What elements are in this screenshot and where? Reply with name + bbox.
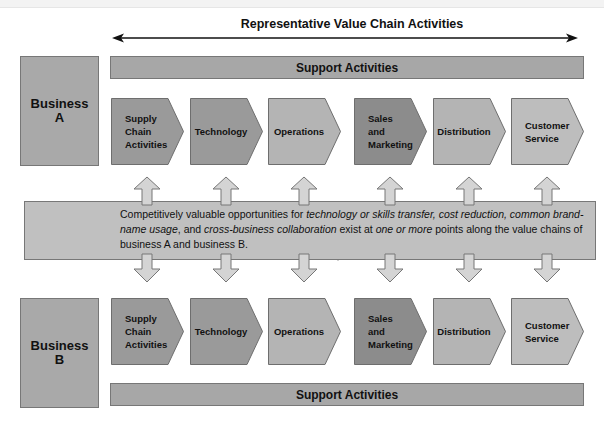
- double-headed-arrow-icon: [112, 33, 578, 43]
- down-arrow-icon: [455, 253, 483, 283]
- business-a-box: BusinessA: [20, 56, 99, 166]
- business-b-label: Business: [31, 338, 89, 353]
- business-a-label: Business: [31, 96, 89, 111]
- activity-b-0: SupplyChainActivities: [111, 298, 184, 365]
- up-arrow-icon: [133, 176, 161, 206]
- activity-a-5: CustomerService: [511, 98, 584, 165]
- activity-label: Distribution: [433, 98, 495, 165]
- up-arrow-icon: [455, 176, 483, 206]
- support-activities-bottom: Support Activities: [110, 383, 584, 406]
- up-arrow-icon: [212, 176, 240, 206]
- activity-a-2: Operations: [268, 98, 341, 165]
- activity-b-5: CustomerService: [511, 298, 584, 365]
- business-b-box: BusinessB: [20, 298, 99, 408]
- activity-a-3: SalesandMarketing: [354, 98, 427, 165]
- activity-label: SupplyChainActivities: [111, 298, 177, 365]
- opportunity-text: Competitively valuable opportunities for…: [120, 207, 588, 252]
- activity-label: CustomerService: [511, 98, 577, 165]
- activity-a-4: Distribution: [433, 98, 506, 165]
- activity-label: Technology: [190, 298, 252, 365]
- diagram-title: Representative Value Chain Activities: [110, 17, 594, 31]
- activity-b-2: Operations: [268, 298, 341, 365]
- activity-label: CustomerService: [511, 298, 577, 365]
- up-arrow-icon: [376, 176, 404, 206]
- activity-label: Operations: [268, 98, 330, 165]
- down-arrow-icon: [533, 253, 561, 283]
- top-rule: [0, 0, 604, 8]
- activity-b-4: Distribution: [433, 298, 506, 365]
- activity-b-3: SalesandMarketing: [354, 298, 427, 365]
- activity-label: SalesandMarketing: [354, 298, 420, 365]
- support-activities-top: Support Activities: [110, 56, 584, 79]
- activity-a-0: SupplyChainActivities: [111, 98, 184, 165]
- activity-label: SupplyChainActivities: [111, 98, 177, 165]
- activity-a-1: Technology: [190, 98, 263, 165]
- down-arrow-icon: [290, 253, 318, 283]
- up-arrow-icon: [533, 176, 561, 206]
- up-arrow-icon: [290, 176, 318, 206]
- activity-label: Distribution: [433, 298, 495, 365]
- activity-label: Operations: [268, 298, 330, 365]
- down-arrow-icon: [212, 253, 240, 283]
- activity-label: Technology: [190, 98, 252, 165]
- down-arrow-icon: [133, 253, 161, 283]
- down-arrow-icon: [376, 253, 404, 283]
- activity-b-1: Technology: [190, 298, 263, 365]
- activity-label: SalesandMarketing: [354, 98, 420, 165]
